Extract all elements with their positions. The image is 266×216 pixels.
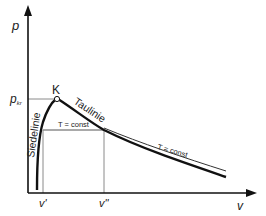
y-axis-arrow-icon [24,5,32,16]
isotherm-inside-label: T = const [58,120,90,129]
v-vapor-tick-label: v'' [99,197,110,209]
x-axis-label: v [237,199,244,213]
critical-point-marker [54,96,59,101]
critical-point-label: K [52,83,60,97]
x-axis-arrow-icon [246,189,257,197]
isotherm-outside-label: T = const [156,142,189,159]
v-liquid-tick-label: v' [39,197,48,209]
saturated-liquid-curve [37,99,56,190]
y-axis-label: p [11,18,19,33]
pv-diagram: p v K pkr Siedelinie Taulinie T = const … [0,0,266,216]
p-kr-label: pkr [9,92,23,106]
